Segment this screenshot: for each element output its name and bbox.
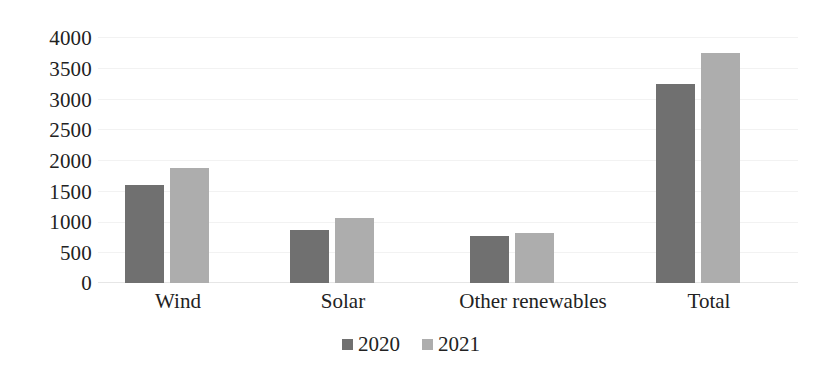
x-tick-label-solar: Solar [265,289,421,313]
bar-total-2020 [656,84,695,283]
legend-label-2020: 2020 [358,334,400,355]
gridline [98,68,798,69]
y-tick-label: 4000 [0,28,92,49]
gridline [98,37,798,38]
y-tick-label: 500 [0,243,92,264]
y-tick-label: 2000 [0,151,92,172]
legend-item-2021: 2021 [422,334,480,355]
y-axis: 4000 3500 3000 2500 2000 1500 1000 500 0 [0,0,92,382]
y-tick-label: 3000 [0,90,92,111]
x-tick-label-total: Total [631,289,787,313]
bar-chart-figure: 4000 3500 3000 2500 2000 1500 1000 500 0 [0,0,822,382]
y-tick-label: 3500 [0,59,92,80]
bar-solar-2020 [290,230,329,284]
y-tick-label: 0 [0,273,92,294]
legend-item-2020: 2020 [342,334,400,355]
y-tick-label: 2500 [0,120,92,141]
bar-wind-2021 [170,168,209,283]
bar-solar-2021 [335,218,374,283]
legend-swatch-2021-icon [422,339,433,350]
legend: 2020 2021 [0,334,822,355]
bar-total-2021 [701,53,740,283]
bar-wind-2020 [125,185,164,283]
x-tick-label-other-renewables: Other renewables [445,289,621,313]
bar-other-renewables-2020 [470,236,509,283]
y-tick-label: 1000 [0,212,92,233]
legend-swatch-2020-icon [342,339,353,350]
x-tick-label-wind: Wind [100,289,256,313]
legend-label-2021: 2021 [438,334,480,355]
bar-other-renewables-2021 [515,233,554,283]
y-tick-label: 1500 [0,182,92,203]
plot-area [98,37,798,283]
